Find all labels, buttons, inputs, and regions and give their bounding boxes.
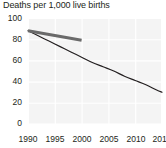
xtick-label-2010: 2010 [123, 135, 149, 144]
ytick-label-40: 40 [0, 77, 22, 86]
xtick-label-1990: 1990 [15, 135, 41, 144]
ytick-label-100: 100 [0, 14, 22, 23]
ytick-label-60: 60 [0, 56, 22, 65]
mortality-line-chart: Deaths per 1,000 live births 100 80 60 [0, 0, 166, 148]
xtick-label-2005: 2005 [96, 135, 122, 144]
ytick-label-20: 20 [0, 98, 22, 107]
plot-area [0, 0, 166, 148]
ytick-label-80: 80 [0, 35, 22, 44]
xtick-label-2015: 2015 [149, 135, 166, 144]
xtick-label-1995: 1995 [42, 135, 68, 144]
xtick-label-2000: 2000 [69, 135, 95, 144]
ytick-label-0: 0 [0, 119, 22, 128]
